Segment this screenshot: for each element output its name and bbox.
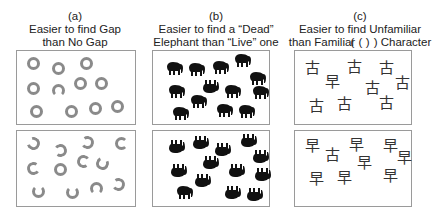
ring-icon [95,77,108,90]
character-glyph: 古 [379,61,394,76]
odd-character-glyph: 早 [325,75,340,90]
character-glyph: 古 [379,96,394,111]
panel-a-bottom-box [16,130,136,207]
elephant-icon [233,53,253,68]
panel-b-bottom-box [152,130,270,207]
character-glyph: 早 [305,139,320,154]
ring-icon [65,105,78,118]
panel-c: (c) Easier to find Unfamiliar ( ) than F… [288,0,432,222]
elephant-icon [223,185,243,200]
elephant-icon [171,106,191,121]
elephant-icon [253,167,273,182]
panel-b-title-line2: Elephant than “Live” one [144,36,288,49]
elephant-icon [251,149,271,164]
elephant-icon [211,60,231,75]
character-glyph: 早 [357,156,372,171]
panel-c-bottom-box: 早古早早早早早早早 [294,130,412,207]
elephant-icon [187,62,207,77]
gap-ring-icon [53,143,68,158]
gap-ring-icon [111,177,126,192]
gap-ring-icon [94,155,111,172]
character-glyph: 早 [383,139,398,154]
elephant-icon [248,71,268,86]
panel-a-label: (a) [0,10,150,23]
ring-icon [27,57,40,70]
character-glyph: 早 [337,171,352,186]
panel-a-title-line1: Easier to find Gap [0,23,150,36]
gap-ring-icon [26,161,41,176]
gap-ring-icon [32,185,45,198]
elephant-icon [223,84,243,99]
elephant-icon [201,155,221,170]
gap-ring-icon [25,135,43,153]
panel-a-top-box [16,50,136,125]
elephant-icon [189,94,209,109]
panel-c-label: (c) [288,10,432,23]
elephant-icon [167,84,187,99]
elephant-icon [165,61,185,76]
gap-ring-icon [90,182,103,195]
gap-ring-icon [80,135,95,150]
odd-character-glyph: 古 [325,148,340,163]
panel-c-title-line2: than Familiar ( ) Character [288,36,432,49]
panel-c-top-box: 古古古早古古古古古 [294,50,412,125]
gap-ring-icon [115,137,128,150]
panel-b-label: (b) [144,10,288,23]
gap-ring-icon [66,186,79,199]
ring-icon [30,105,43,118]
ring-icon [80,57,93,70]
panel-b-top-box [152,50,270,125]
character-glyph: 古 [395,76,410,91]
panel-a-title-line2: than No Gap [0,36,150,49]
character-glyph: 早 [349,138,364,153]
gap-ring-icon [52,84,65,97]
character-glyph: 古 [337,97,352,112]
elephant-icon [215,103,235,118]
elephant-icon [193,173,213,188]
panel-a: (a) Easier to find Gap than No Gap [0,0,150,222]
elephant-icon [169,163,189,178]
ring-icon [27,82,40,95]
odd-elephant-icon [201,79,221,94]
character-glyph: 古 [309,99,324,114]
elephant-icon [239,133,259,148]
character-glyph: 早 [383,169,398,184]
character-glyph: 古 [305,61,320,76]
ring-icon [89,102,102,115]
elephant-icon [237,104,257,119]
ring-icon [74,77,87,90]
elephant-icon [251,85,271,100]
panel-b: (b) Easier to find a “Dead” Elephant tha… [144,0,288,222]
elephant-icon [167,139,187,154]
ring-icon [54,163,67,176]
character-glyph: 古 [347,60,362,75]
ring-icon [52,62,65,75]
character-glyph: 古 [365,81,380,96]
elephant-icon [245,187,265,202]
ring-icon [111,100,124,113]
character-glyph: 早 [309,172,324,187]
panel-b-title-line1: Easier to find a “Dead” [144,23,288,36]
elephant-icon [227,163,247,178]
odd-elephant-icon [175,185,195,200]
character-glyph: 早 [397,151,412,166]
gap-ring-icon [76,154,91,169]
elephant-icon [191,135,211,150]
